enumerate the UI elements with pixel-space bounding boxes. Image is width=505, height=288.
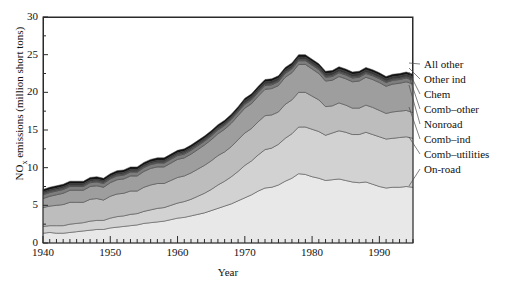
x-tick-label: 1990 (359, 247, 399, 258)
y-tick-label: 10 (12, 162, 38, 173)
y-tick-label: 30 (12, 11, 38, 22)
y-tick-label: 20 (12, 86, 38, 97)
x-axis-label: Year (168, 266, 288, 278)
legend-item-chem: Chem (424, 88, 450, 100)
legend-item-on-road: On-road (424, 163, 461, 175)
chart-figure: NOx emissions (million short tons) Year … (0, 0, 505, 288)
legend-item-other-ind: Other ind (424, 73, 466, 85)
x-tick-label: 1960 (158, 247, 198, 258)
legend-leader-line (409, 63, 420, 64)
legend-item-comb-ind: Comb–ind (424, 133, 470, 145)
legend-item-all-other: All other (424, 58, 463, 70)
y-axis-label: NOx emissions (million short tons) (13, 0, 28, 219)
x-tick-label: 1950 (90, 247, 130, 258)
y-tick-label: 25 (12, 49, 38, 60)
x-tick-label: 1940 (23, 247, 63, 258)
x-tick-label: 1970 (225, 247, 265, 258)
legend-item-comb-utilities: Comb–utilities (424, 148, 489, 160)
y-tick-label: 15 (12, 124, 38, 135)
legend-item-comb-other: Comb–other (424, 103, 479, 115)
x-tick-label: 1980 (292, 247, 332, 258)
legend-item-nonroad: Nonroad (424, 118, 463, 130)
y-tick-label: 5 (12, 199, 38, 210)
